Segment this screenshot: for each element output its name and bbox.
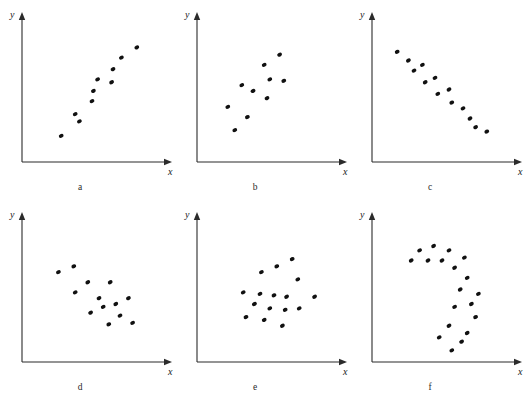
data-point (250, 88, 256, 94)
data-point (118, 55, 124, 61)
x-axis-label-a: x (167, 166, 173, 177)
plot-area-f: yxf (350, 200, 524, 404)
data-point (439, 258, 445, 264)
data-point (76, 119, 82, 125)
data-point-group-c (394, 49, 490, 134)
data-point (459, 339, 465, 345)
data-point (473, 314, 479, 320)
data-point (277, 52, 283, 58)
data-point (484, 129, 490, 135)
data-point (55, 269, 61, 275)
data-point-group-f (408, 243, 481, 353)
data-point (258, 269, 264, 275)
data-point (71, 263, 77, 269)
data-point (289, 256, 295, 262)
panel-caption-c: c (428, 182, 432, 192)
data-point (408, 258, 414, 264)
scatter-diagram-figure: yxayxbyxcyxdyxeyxf (0, 0, 524, 409)
data-point (267, 305, 273, 311)
scatter-panel-a: yxa (0, 0, 174, 204)
data-point (446, 247, 452, 253)
data-point (125, 295, 131, 301)
data-point-group-d (55, 263, 135, 327)
data-point (282, 307, 288, 313)
data-point (279, 323, 285, 329)
data-point (89, 98, 95, 104)
data-point (88, 310, 94, 316)
plot-area-b: yxb (175, 0, 349, 204)
scatter-panel-c: yxc (350, 0, 524, 204)
panel-caption-b: b (253, 182, 258, 192)
data-point (417, 247, 423, 253)
scatter-panel-e: yxe (175, 200, 349, 404)
data-point (436, 334, 442, 340)
scatter-panel-b: yxb (175, 0, 349, 204)
data-point (109, 79, 115, 85)
data-point (422, 79, 428, 85)
data-point (106, 321, 112, 327)
data-point (267, 76, 273, 82)
x-axis-label-c: x (517, 166, 523, 177)
data-point (264, 95, 270, 101)
x-axis-label-b: x (342, 166, 348, 177)
plot-area-a: yxa (0, 0, 174, 204)
x-axis-arrowhead-e (339, 359, 347, 365)
data-point (271, 292, 277, 298)
panel-caption-a: a (78, 182, 83, 192)
data-point (257, 291, 263, 297)
data-point (411, 68, 417, 74)
plot-area-d: yxd (0, 200, 174, 404)
x-axis-label-f: x (517, 366, 523, 377)
data-point (452, 265, 458, 271)
data-point (240, 290, 246, 296)
data-point (72, 111, 78, 117)
data-point-group-e (240, 256, 318, 328)
y-axis-arrowhead-d (19, 212, 25, 220)
data-point (72, 290, 78, 296)
data-point (452, 304, 458, 310)
y-axis-label-a: y (9, 9, 15, 20)
y-axis-arrowhead-e (194, 212, 200, 220)
x-axis-arrowhead-a (164, 159, 172, 165)
data-point (464, 275, 470, 281)
data-point (312, 294, 318, 300)
data-point (225, 104, 231, 110)
data-point (473, 124, 479, 130)
data-point (261, 317, 267, 323)
data-point (467, 116, 473, 122)
data-point (239, 82, 245, 88)
data-point (468, 301, 474, 307)
y-axis-label-f: y (359, 209, 365, 220)
x-axis-arrowhead-b (339, 159, 347, 165)
data-point (464, 330, 470, 336)
data-point (295, 276, 301, 282)
y-axis-arrowhead-a (19, 12, 25, 20)
scatter-panel-f: yxf (350, 200, 524, 404)
data-point (461, 255, 467, 261)
data-point (85, 279, 91, 285)
data-point (475, 291, 481, 297)
panel-caption-e: e (253, 382, 257, 392)
data-point (107, 279, 113, 285)
data-point (425, 258, 431, 264)
data-point (431, 243, 437, 249)
data-point (95, 76, 101, 82)
data-point (117, 313, 123, 319)
y-axis-arrowhead-b (194, 12, 200, 20)
data-point (96, 295, 102, 301)
data-point (394, 49, 400, 55)
x-axis-arrowhead-d (164, 359, 172, 365)
data-point (274, 263, 280, 269)
plot-area-e: yxe (175, 200, 349, 404)
y-axis-arrowhead-c (369, 12, 375, 20)
data-point (284, 294, 290, 300)
data-point (435, 91, 441, 97)
y-axis-label-d: y (9, 209, 15, 220)
data-point-group-b (225, 52, 287, 133)
panel-grid: yxayxbyxcyxdyxeyxf (0, 0, 524, 409)
data-point (232, 127, 238, 133)
y-axis-arrowhead-f (369, 212, 375, 220)
y-axis-label-b: y (184, 9, 190, 20)
panel-caption-d: d (78, 382, 83, 392)
data-point (457, 287, 463, 293)
